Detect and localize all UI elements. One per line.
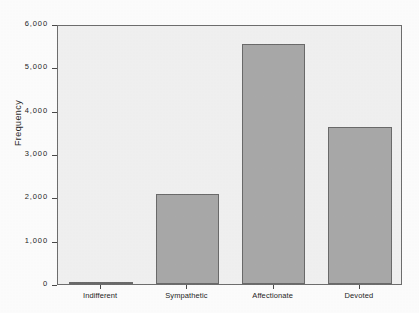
x-axis-tick-mark — [186, 285, 187, 289]
frequency-bar-chart: Frequency 01,0002,0003,0004,0005,0006,00… — [0, 0, 419, 313]
bar — [328, 127, 391, 284]
bar — [242, 44, 305, 284]
y-axis-tick-label: 5,000 — [25, 62, 48, 71]
x-axis-category-label: Indifferent — [57, 291, 143, 300]
y-axis-tick-label: 0 — [43, 279, 48, 288]
y-axis-tick-label: 4,000 — [25, 106, 48, 115]
bar — [69, 282, 132, 284]
y-axis-tick-mark — [52, 285, 57, 286]
x-axis-tick-mark — [100, 285, 101, 289]
x-axis-tick-mark — [359, 285, 360, 289]
x-axis-category-label: Affectionate — [230, 291, 316, 300]
y-axis-tick-label: 3,000 — [25, 149, 48, 158]
x-axis-category-label: Sympathetic — [143, 291, 229, 300]
plot-area — [57, 25, 402, 285]
bar — [156, 194, 219, 284]
x-axis-category-label: Devoted — [316, 291, 402, 300]
y-axis-tick-label: 2,000 — [25, 192, 48, 201]
y-axis-tick-label: 6,000 — [25, 19, 48, 28]
y-axis-title: Frequency — [13, 73, 23, 173]
x-axis-tick-mark — [273, 285, 274, 289]
y-axis-tick-label: 1,000 — [25, 236, 48, 245]
bars-group — [58, 26, 401, 284]
